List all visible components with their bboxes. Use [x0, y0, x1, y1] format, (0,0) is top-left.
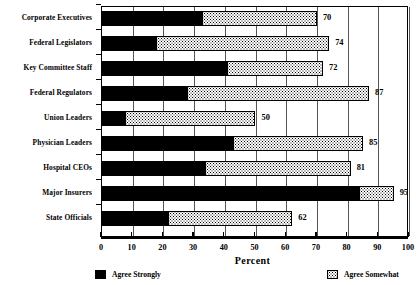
legend-item-agree-strongly: Agree Strongly [95, 269, 161, 280]
bar-row [102, 86, 409, 101]
x-axis-tick-label: 100 [402, 243, 414, 252]
category-tick [96, 154, 101, 155]
category-tick [96, 104, 101, 105]
bar-segment-agree-somewhat [227, 61, 323, 76]
category-label: Physician Leaders [0, 135, 92, 150]
category-tick [96, 79, 101, 80]
category-label: Corporate Executives [0, 10, 92, 25]
bar-value-label: 87 [375, 85, 383, 100]
category-label: Federal Legislators [0, 35, 92, 50]
gridline [409, 7, 410, 236]
x-axis-tick [315, 232, 316, 237]
x-axis-tick [162, 232, 163, 237]
bar-value-label: 81 [357, 160, 365, 175]
category-label: Federal Regulators [0, 85, 92, 100]
x-axis-tick-label: 20 [158, 243, 166, 252]
x-axis-tick-label: 10 [128, 243, 136, 252]
category-tick [96, 204, 101, 205]
solid-black-swatch-icon [95, 270, 106, 279]
bar-segment-agree-strongly [102, 111, 127, 126]
bar-segment-agree-somewhat [168, 211, 292, 226]
x-axis-tick-label: 50 [250, 243, 258, 252]
legend-item-agree-somewhat: Agree Somewhat [327, 269, 399, 280]
category-label: Hospital CEOs [0, 160, 92, 175]
x-axis-tick-label: 80 [343, 243, 351, 252]
plot-area [101, 6, 408, 237]
x-axis-tick-label: 60 [281, 243, 289, 252]
legend-label: Agree Strongly [112, 270, 161, 279]
category-tick [96, 29, 101, 30]
x-axis-tick-label: 30 [189, 243, 197, 252]
bar-segment-agree-strongly [102, 211, 170, 226]
x-axis-line [101, 237, 408, 239]
category-label: Union Leaders [0, 110, 92, 125]
x-axis-tick [285, 232, 286, 237]
bar-segment-agree-somewhat [233, 136, 363, 151]
bar-value-label: 72 [329, 60, 337, 75]
category-tick [96, 54, 101, 55]
bar-value-label: 95 [400, 185, 408, 200]
x-axis-tick-label: 70 [312, 243, 320, 252]
bar-segment-agree-strongly [102, 186, 360, 201]
category-label: Key Committee Staff [0, 60, 92, 75]
bar-row [102, 136, 409, 151]
x-axis-tick [254, 232, 255, 237]
bar-value-label: 70 [323, 10, 331, 25]
bar-segment-agree-somewhat [205, 161, 350, 176]
bar-row [102, 186, 409, 201]
bar-segment-agree-somewhat [359, 186, 394, 201]
category-label: Major Insurers [0, 185, 92, 200]
category-tick [96, 129, 101, 130]
x-axis-tick-label: 0 [99, 243, 103, 252]
bar-value-label: 85 [369, 135, 377, 150]
bar-segment-agree-somewhat [187, 86, 369, 101]
bar-segment-agree-strongly [102, 61, 228, 76]
x-axis-tick [131, 232, 132, 237]
bar-row [102, 11, 409, 26]
bar-segment-agree-strongly [102, 11, 203, 26]
category-tick [96, 179, 101, 180]
bar-row [102, 211, 409, 226]
x-axis-tick [223, 232, 224, 237]
bar-value-label: 74 [335, 35, 343, 50]
x-axis-tick-label: 90 [373, 243, 381, 252]
legend-label: Agree Somewhat [344, 270, 399, 279]
dotted-white-swatch-icon [327, 270, 338, 279]
bar-segment-agree-somewhat [202, 11, 317, 26]
bar-row [102, 36, 409, 51]
bar-segment-agree-strongly [102, 36, 157, 51]
x-axis-title: Percent [0, 255, 420, 266]
x-axis-tick [346, 232, 347, 237]
bar-segment-agree-somewhat [125, 111, 255, 126]
bar-segment-agree-strongly [102, 161, 206, 176]
x-axis-tick [192, 232, 193, 237]
x-axis-tick [100, 232, 101, 237]
stacked-bar-chart: Corporate ExecutivesFederal LegislatorsK… [0, 0, 420, 285]
bar-row [102, 111, 409, 126]
bar-segment-agree-strongly [102, 136, 234, 151]
bar-row [102, 61, 409, 76]
bar-value-label: 50 [262, 110, 270, 125]
bar-value-label: 62 [298, 210, 306, 225]
x-axis-tick-label: 40 [220, 243, 228, 252]
category-label: State Officials [0, 210, 92, 225]
bar-segment-agree-strongly [102, 86, 188, 101]
x-axis-tick [407, 232, 408, 237]
bar-segment-agree-somewhat [156, 36, 329, 51]
category-tick [96, 4, 101, 5]
x-axis-tick [377, 232, 378, 237]
